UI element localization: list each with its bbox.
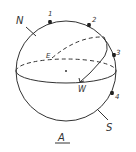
star-icon <box>110 91 114 95</box>
star-label-1: 1 <box>48 10 52 18</box>
figure-title: A <box>57 132 65 143</box>
star-label-2: 2 <box>92 16 97 24</box>
celestial-sphere-diagram: N S E W 1 2 3 4 A <box>0 0 136 152</box>
west-label: W <box>78 85 87 94</box>
star-label-3: 3 <box>116 49 120 57</box>
south-label: S <box>106 122 113 133</box>
north-label: N <box>16 15 24 26</box>
star-icon <box>87 23 91 27</box>
center-dot <box>65 70 67 72</box>
tilted-circle-back <box>52 37 104 58</box>
w-arrowhead <box>79 78 84 82</box>
equator-front <box>16 71 116 83</box>
star-icon <box>48 20 52 24</box>
south-axis-tick <box>98 110 108 120</box>
east-label: E <box>46 52 51 60</box>
star-label-4: 4 <box>115 93 119 101</box>
